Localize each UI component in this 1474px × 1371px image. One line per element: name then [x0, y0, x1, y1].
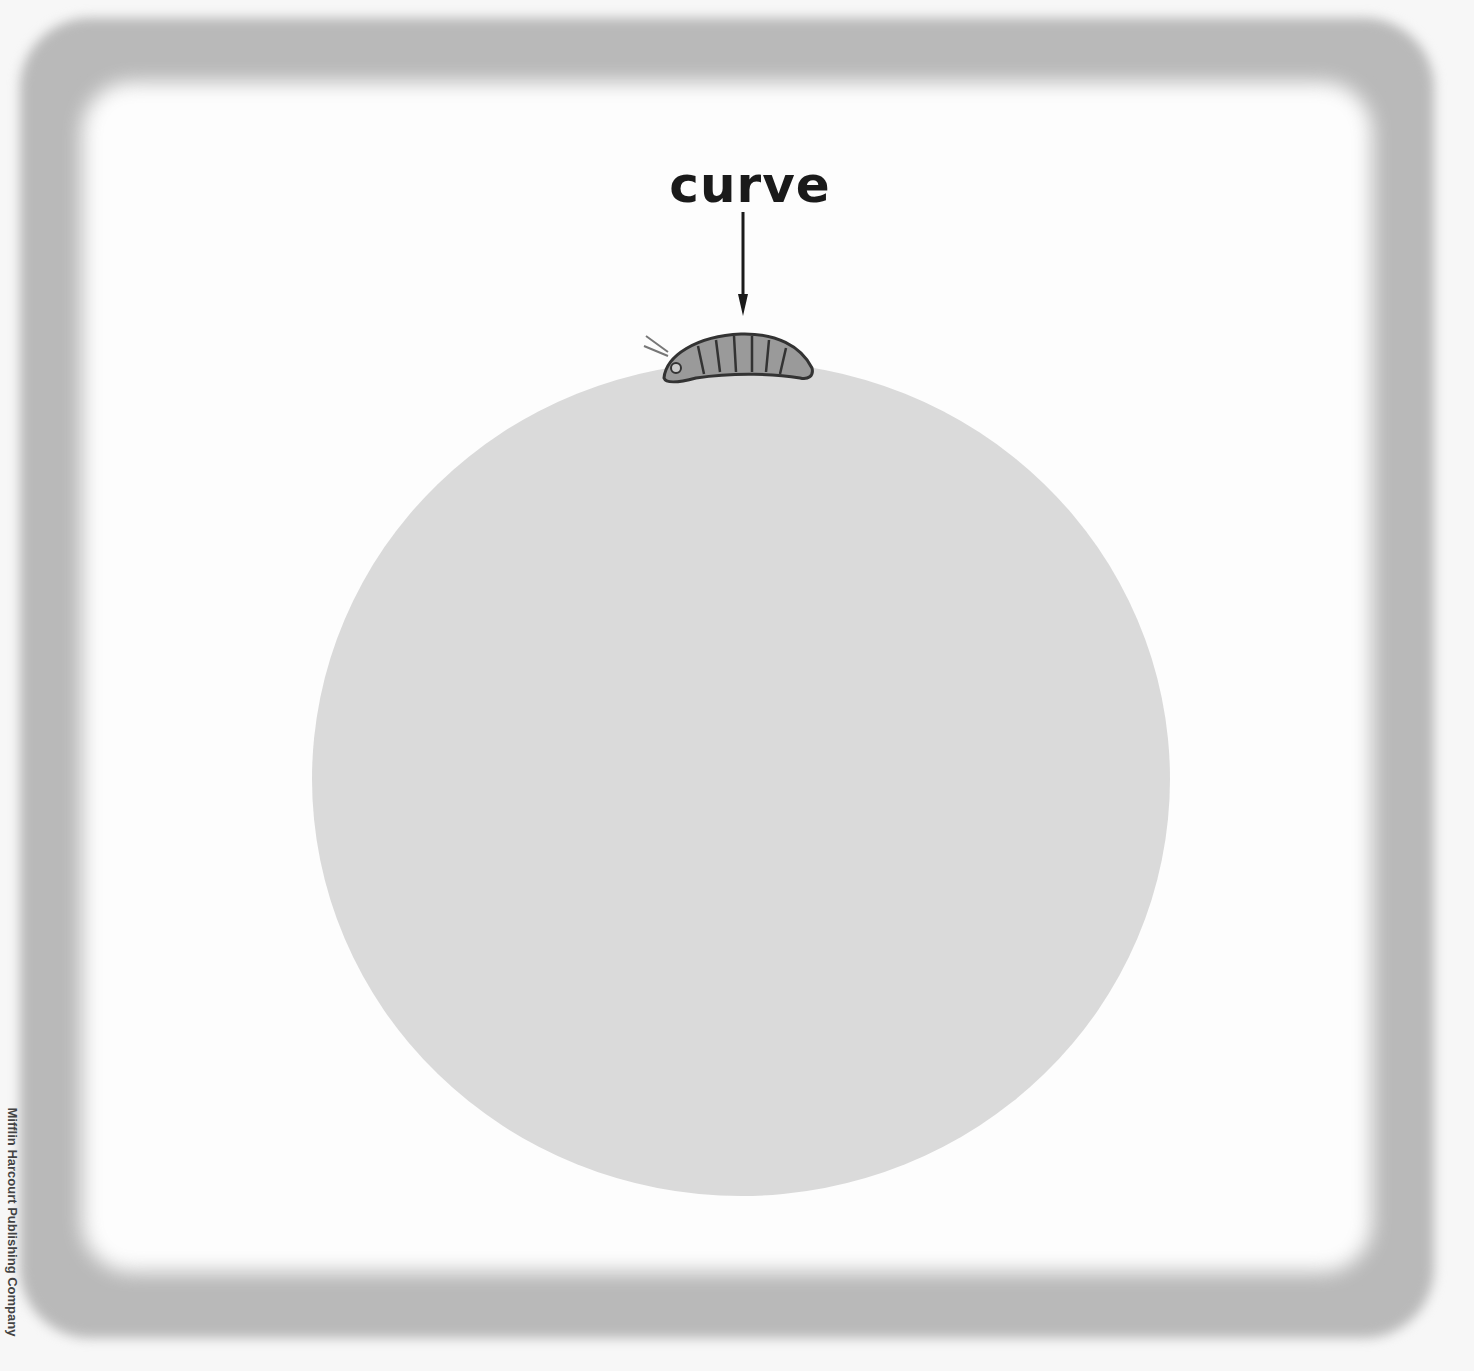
publisher-credit: Mifflin Harcourt Publishing Company — [5, 1108, 20, 1368]
arrow-down-icon — [738, 212, 748, 316]
circle-shape — [312, 362, 1170, 1196]
curve-label: curve — [650, 156, 850, 214]
illustration: curve Mifflin Harcourt Publishing Compan… — [0, 0, 1474, 1371]
caterpillar-icon — [636, 316, 821, 386]
